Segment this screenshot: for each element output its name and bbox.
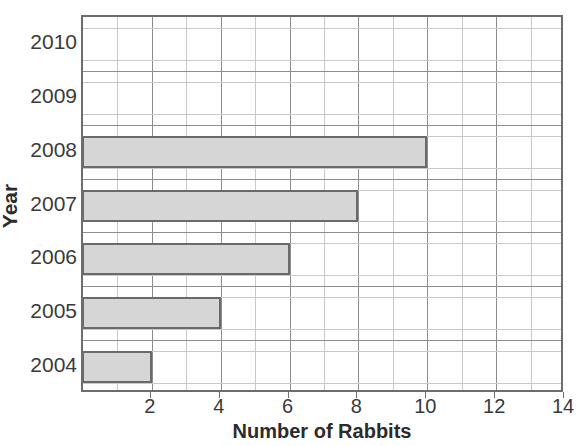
gridline-horizontal bbox=[83, 60, 561, 61]
y-tick-label-2004: 2004 bbox=[5, 354, 77, 375]
gridline-horizontal bbox=[83, 82, 561, 83]
plot-area bbox=[81, 15, 563, 392]
x-tick-label-6: 6 bbox=[268, 396, 308, 416]
y-tick-label-2008: 2008 bbox=[5, 139, 77, 160]
bar-2006 bbox=[82, 243, 290, 275]
gridline-horizontal bbox=[83, 179, 561, 180]
bar-2005 bbox=[82, 297, 221, 329]
x-tickmark-8 bbox=[356, 392, 357, 398]
gridline-horizontal bbox=[83, 286, 561, 287]
gridline-horizontal bbox=[83, 28, 561, 29]
x-tickmark-4 bbox=[219, 392, 220, 398]
gridline-vertical bbox=[531, 17, 532, 390]
gridline-vertical bbox=[462, 17, 463, 390]
gridline-horizontal bbox=[83, 168, 561, 169]
gridline-vertical bbox=[496, 17, 497, 390]
gridline-vertical bbox=[358, 17, 359, 390]
y-tick-label-2010: 2010 bbox=[5, 31, 77, 52]
x-tick-label-2: 2 bbox=[130, 396, 170, 416]
y-tick-label-2007: 2007 bbox=[5, 193, 77, 214]
x-tickmark-6 bbox=[288, 392, 289, 398]
gridline-horizontal bbox=[83, 329, 561, 330]
bar-2008 bbox=[82, 136, 427, 168]
x-tick-label-4: 4 bbox=[199, 396, 239, 416]
x-tick-label-14: 14 bbox=[543, 396, 579, 416]
gridline-vertical bbox=[393, 17, 394, 390]
gridline-horizontal bbox=[83, 114, 561, 115]
y-tick-label-2009: 2009 bbox=[5, 85, 77, 106]
gridline-horizontal bbox=[83, 340, 561, 341]
x-axis-title: Number of Rabbits bbox=[81, 420, 563, 443]
x-tick-label-10: 10 bbox=[405, 396, 445, 416]
gridline-horizontal bbox=[83, 383, 561, 384]
x-tickmark-12 bbox=[494, 392, 495, 398]
gridline-horizontal bbox=[83, 232, 561, 233]
gridline-horizontal bbox=[83, 275, 561, 276]
y-tick-label-2006: 2006 bbox=[5, 246, 77, 267]
bar-2004 bbox=[82, 351, 152, 383]
x-tick-label-12: 12 bbox=[474, 396, 514, 416]
gridline-vertical bbox=[427, 17, 428, 390]
bar-2007 bbox=[82, 190, 358, 222]
x-tick-label-8: 8 bbox=[336, 396, 376, 416]
x-tickmark-2 bbox=[150, 392, 151, 398]
gridline-horizontal bbox=[83, 125, 561, 126]
y-tick-label-2005: 2005 bbox=[5, 300, 77, 321]
gridline-horizontal bbox=[83, 351, 561, 352]
gridline-horizontal bbox=[83, 71, 561, 72]
x-tickmark-14 bbox=[563, 392, 564, 398]
x-tickmark-10 bbox=[425, 392, 426, 398]
